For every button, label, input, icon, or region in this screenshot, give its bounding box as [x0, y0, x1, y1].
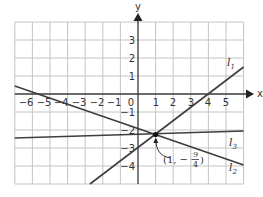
annotation-arrow-icon [153, 138, 158, 144]
svg-text:−1: −1 [120, 107, 135, 118]
x-axis-arrow-icon [246, 90, 254, 99]
svg-text:−6: −6 [19, 97, 34, 108]
label-l3: l3 [229, 136, 238, 151]
svg-text:−2: −2 [90, 97, 105, 108]
y-axis-arrow-icon [134, 13, 143, 21]
svg-text:4: 4 [193, 160, 198, 169]
coordinate-plane-figure: x y −6 −5 −4 −3 −2 −1 0 1 2 3 4 5 3 2 1 … [0, 0, 263, 197]
svg-text:2: 2 [129, 53, 135, 64]
svg-text:−1: −1 [107, 97, 122, 108]
svg-text:(1, −: (1, − [163, 154, 188, 165]
svg-text:1: 1 [153, 97, 159, 108]
svg-text:9: 9 [193, 150, 198, 159]
intersection-point [153, 132, 158, 137]
x-axis-label: x [257, 88, 263, 99]
svg-text:2: 2 [170, 97, 176, 108]
svg-text:−4: −4 [120, 161, 135, 172]
svg-text:4: 4 [205, 97, 211, 108]
y-axis-label: y [135, 1, 141, 12]
svg-text:5: 5 [223, 97, 229, 108]
svg-text:3: 3 [129, 35, 135, 46]
svg-text:): ) [200, 154, 204, 165]
svg-text:1: 1 [129, 71, 135, 82]
